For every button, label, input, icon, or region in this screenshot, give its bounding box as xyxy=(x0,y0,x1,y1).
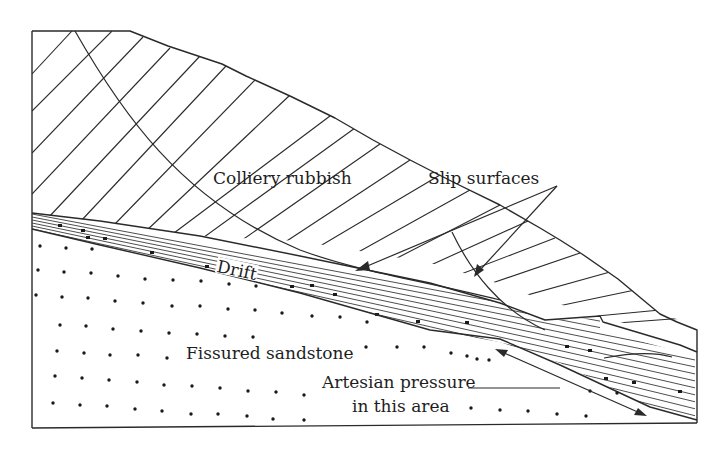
sandstone-dots xyxy=(34,244,618,421)
label-slip-surfaces: Slip surfaces xyxy=(428,168,539,188)
cross-section-diagram: Colliery rubbish Slip surfaces Drift Fis… xyxy=(0,0,724,452)
label-artesian-line2: in this area xyxy=(352,396,450,416)
ground-surface xyxy=(32,31,697,374)
slip-surface-upper xyxy=(75,31,500,300)
drift-stones xyxy=(58,224,682,393)
label-artesian-line1: Artesian pressure xyxy=(321,372,476,392)
label-fissured-sandstone: Fissured sandstone xyxy=(186,343,354,363)
slip-surface-toe xyxy=(604,354,672,358)
outer-frame xyxy=(32,31,697,428)
slip-surfaces-arrows xyxy=(355,186,557,277)
label-colliery-rubbish: Colliery rubbish xyxy=(213,168,352,188)
artesian-pressure-arrow xyxy=(468,349,647,416)
